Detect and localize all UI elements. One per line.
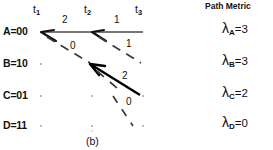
state-label-A: A=00 xyxy=(3,25,28,37)
lambda-value-A: =3 xyxy=(235,23,248,35)
path-metric-row-D: λD=0 xyxy=(222,114,248,131)
state-label-D: D=11 xyxy=(3,119,27,131)
dashed-edge-A-t1-to-B-t2 xyxy=(47,37,90,63)
time-tick-t3: t3 xyxy=(135,3,142,17)
branch-label-C-to-D: 0 xyxy=(126,96,132,107)
node-C-t1 xyxy=(40,95,42,97)
lambda-value-D: =0 xyxy=(235,117,248,129)
lambda-symbol-C: λ xyxy=(222,84,229,100)
path-metric-row-A: λA=3 xyxy=(222,20,248,37)
branch-label-A-t1-t2: 2 xyxy=(62,14,68,25)
branch-label-A-t2-t3: 1 xyxy=(114,14,120,25)
branch-label-A-t2-to-B: 1 xyxy=(126,38,132,49)
lambda-value-B: =3 xyxy=(235,55,248,67)
path-metric-row-C: λC=2 xyxy=(222,84,248,101)
node-D-t2 xyxy=(91,125,93,127)
node-D-t1 xyxy=(40,125,42,127)
state-label-B: B=10 xyxy=(3,57,28,69)
node-B-t1 xyxy=(40,63,42,65)
dashed-edge-A-t2-to-B-t3 xyxy=(99,37,141,63)
path-metric-header: Path Metric xyxy=(205,1,251,11)
trellis-diagram-figure: t1 t2 t3 A=00 B=10 C=01 D=11 2 1 0 1 2 0… xyxy=(0,0,273,150)
node-C-t2 xyxy=(91,95,93,97)
node-marker-t2-lower xyxy=(91,130,93,132)
lambda-symbol-D: λ xyxy=(222,114,229,130)
time-tick-t1-sub: 1 xyxy=(36,8,40,17)
time-tick-t2: t2 xyxy=(84,3,91,17)
lambda-symbol-B: λ xyxy=(222,52,229,68)
node-C-t3 xyxy=(142,95,144,97)
figure-caption: (b) xyxy=(86,135,99,147)
lambda-symbol-A: λ xyxy=(222,20,229,36)
lambda-value-C: =2 xyxy=(235,87,248,99)
branch-label-C-to-B: 2 xyxy=(122,70,128,81)
time-tick-t3-sub: 3 xyxy=(138,8,142,17)
time-tick-t2-sub: 2 xyxy=(87,8,91,17)
node-D-t3 xyxy=(142,125,144,127)
state-label-C: C=01 xyxy=(3,89,28,101)
survivor-edge-C-t3-to-B-t2 xyxy=(90,64,140,95)
time-tick-t1: t1 xyxy=(33,3,40,17)
branch-label-A-t1-to-B: 0 xyxy=(70,40,76,51)
path-metric-row-B: λB=3 xyxy=(222,52,248,69)
